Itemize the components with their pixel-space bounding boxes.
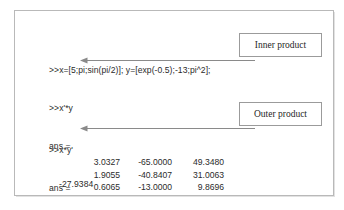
matrix-cell: 31.0063 [172,169,224,181]
matrix-cell: -65.0000 [120,156,172,168]
matrix-cell: -13.0000 [120,181,172,193]
matrix-cell: 1.9055 [68,169,120,181]
table-row: 3.0327-65.000049.3480 [49,144,224,156]
callout-inner-product-label: Inner product [255,40,306,50]
console-line-define: >>x=[5;pi;sin(pi/2)]; y=[exp(-0.5);-13;p… [49,64,211,77]
result-matrix: 3.0327-65.000049.3480 1.9055-40.840731.0… [49,144,224,181]
callout-outer-product: Outer product [239,102,322,126]
arrow-outer-product [79,124,255,133]
matrix-cell: 9.8696 [172,181,224,193]
matrix-cell: 49.3480 [172,156,224,168]
callout-outer-product-label: Outer product [254,109,307,119]
screenshot-root: >>x=[5;pi;sin(pi/2)]; y=[exp(-0.5);-13;p… [0,0,344,210]
callout-inner-product: Inner product [239,33,322,57]
matrix-cell: -40.8407 [120,169,172,181]
matrix-cell: 3.0327 [68,156,120,168]
matrix-cell: 0.6065 [68,181,120,193]
arrow-inner-product [79,56,255,65]
console-line-inner-command: >>x'*y [49,102,211,115]
